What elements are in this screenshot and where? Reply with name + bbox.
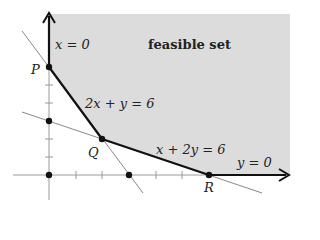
line1-label: 2x + y = 6 xyxy=(85,97,155,110)
feasible-set-label: feasible set xyxy=(148,38,231,51)
x-eq-0-label: x = 0 xyxy=(55,38,90,51)
point-q-label: Q xyxy=(88,146,99,159)
point-r-label: R xyxy=(204,181,214,194)
point-p-label: P xyxy=(31,63,40,76)
y-eq-0-label: y = 0 xyxy=(237,156,272,169)
line2-label: x + 2y = 6 xyxy=(156,143,226,156)
